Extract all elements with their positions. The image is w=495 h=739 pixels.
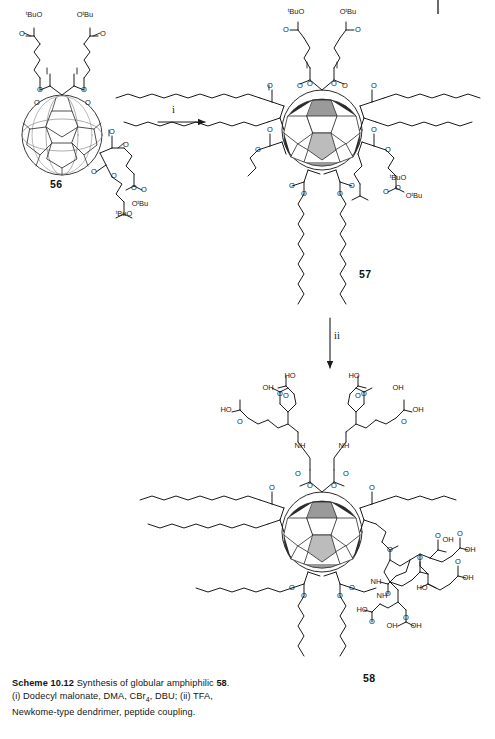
oxygen-label: O — [141, 185, 147, 194]
hydroxyl-label: HO — [356, 605, 367, 614]
reaction-scheme-drawing: tBuO OtBu O O O O O O O O O O O O tBuO O… — [0, 0, 495, 739]
caption-title-text: Synthesis of globular amphiphilic — [77, 678, 214, 688]
compound-label-58: 58 — [363, 672, 375, 684]
oxygen-label: O — [307, 481, 313, 490]
oxygen-label: O — [455, 557, 461, 566]
oxygen-label: O — [343, 469, 349, 478]
oxygen-label: O — [255, 145, 261, 154]
amide-label: NH — [295, 441, 306, 450]
caption-conditions-b: , DBU; (ii) TFA, — [150, 691, 213, 701]
hydroxyl-label: OH — [462, 573, 473, 582]
hydroxyl-label: OH — [442, 535, 453, 544]
oxygen-label: O — [277, 389, 283, 398]
oxygen-label: O — [349, 181, 355, 190]
caption-title-compound: 58 — [216, 678, 226, 688]
oxygen-label: O — [385, 145, 391, 154]
oxygen-label: O — [457, 529, 463, 538]
oxygen-label: O — [369, 617, 375, 626]
oxygen-label: O — [131, 183, 137, 192]
hydroxyl-label: OH — [410, 621, 421, 630]
scheme-canvas: tBuO OtBu O O O O O O O O O O O O tBuO O… — [0, 0, 495, 739]
hydroxyl-label: HO — [416, 583, 427, 592]
oxygen-label: O — [237, 417, 243, 426]
compound-label-56: 56 — [50, 178, 62, 190]
caption-conditions-line2: Newkome-type dendrimer, peptide coupling… — [12, 707, 195, 717]
oxygen-label: O — [100, 29, 106, 38]
caption-conditions-a: (i) Dodecyl malonate, DMA, CBr — [12, 691, 146, 701]
oxygen-label: O — [395, 183, 401, 192]
oxygen-label: O — [283, 25, 289, 34]
oxygen-label: O — [371, 81, 377, 90]
oxygen-label: O — [91, 167, 97, 176]
oxygen-label: O — [301, 189, 307, 198]
oxygen-label: O — [123, 140, 129, 149]
oxygen-label: O — [401, 417, 407, 426]
oxygen-label: O — [283, 391, 289, 400]
oxygen-label: O — [289, 181, 295, 190]
amide-label: NH — [371, 577, 382, 586]
reagent-label-step-i: i — [172, 104, 175, 115]
tbu-label: OtBu — [132, 199, 149, 208]
oxygen-label: O — [267, 81, 273, 90]
reagent-label-step-ii: ii — [334, 330, 340, 341]
oxygen-label: O — [81, 85, 87, 94]
oxygen-label: O — [34, 98, 40, 107]
oxygen-label: O — [355, 25, 361, 34]
compound-58-structure — [140, 376, 468, 656]
compound-56-structure — [22, 28, 142, 218]
oxygen-label: O — [269, 483, 275, 492]
oxygen-label: O — [111, 171, 117, 180]
hydroxyl-label: OH — [386, 621, 397, 630]
hydroxyl-label: HO — [348, 371, 359, 380]
tbu-label: tBuO — [26, 10, 43, 19]
scheme-caption: Scheme 10.12 Synthesis of globular amphi… — [12, 677, 312, 719]
oxygen-label: O — [337, 591, 343, 600]
hydroxyl-label: OH — [464, 545, 475, 554]
caption-title-period: . — [227, 678, 230, 688]
tbu-label: OtBu — [340, 7, 357, 16]
oxygen-label: O — [297, 81, 303, 90]
oxygen-label: O — [37, 85, 43, 94]
oxygen-label: O — [342, 81, 348, 90]
hydroxyl-label: HO — [220, 405, 231, 414]
amide-label: NH — [339, 441, 350, 450]
oxygen-label: O — [109, 127, 115, 136]
oxygen-label: O — [337, 189, 343, 198]
caption-scheme-label: Scheme 10.12 — [12, 678, 74, 688]
oxygen-label: O — [403, 613, 409, 622]
compound-57-structure — [116, 22, 480, 304]
oxygen-label: O — [295, 469, 301, 478]
oxygen-label: O — [383, 187, 389, 196]
oxygen-label: O — [19, 29, 25, 38]
tbu-label: tBuO — [288, 7, 305, 16]
tbu-label: OtBu — [77, 10, 94, 19]
oxygen-label: O — [85, 98, 91, 107]
oxygen-label: O — [267, 125, 273, 134]
oxygen-label: O — [349, 583, 355, 592]
hydroxyl-label: OH — [412, 405, 423, 414]
oxygen-label: O — [417, 553, 423, 562]
oxygen-label: O — [301, 591, 307, 600]
oxygen-label: O — [331, 79, 337, 88]
oxygen-label: O — [361, 389, 367, 398]
oxygen-label: O — [435, 531, 441, 540]
compound-label-57: 57 — [359, 268, 371, 280]
hydroxyl-label: OH — [392, 383, 403, 392]
tbu-label: tBuO — [390, 173, 407, 182]
oxygen-label: O — [331, 481, 337, 490]
tbu-label: OtBu — [406, 191, 423, 200]
oxygen-label: O — [387, 545, 393, 554]
oxygen-label: O — [371, 125, 377, 134]
oxygen-label: O — [289, 583, 295, 592]
oxygen-label: O — [385, 589, 391, 598]
hydroxyl-label: HO — [284, 371, 295, 380]
hydroxyl-label: OH — [262, 383, 273, 392]
oxygen-label: O — [369, 483, 375, 492]
tbu-label: tBuO — [116, 209, 133, 218]
oxygen-label: O — [307, 79, 313, 88]
